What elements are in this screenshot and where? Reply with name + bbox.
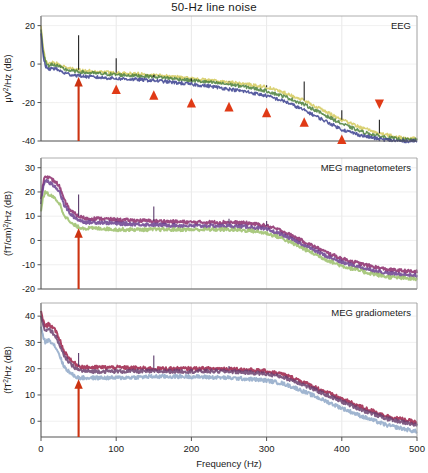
panel-tag-1: MEG magnetometers xyxy=(321,162,412,173)
ytick-label-30: 30 xyxy=(25,163,35,173)
panel-tag-2: MEG gradiometers xyxy=(331,307,411,318)
ytick-label--20: -20 xyxy=(22,98,35,108)
ytick-label-0: 0 xyxy=(30,236,35,246)
ytick-label-20: 20 xyxy=(25,187,35,197)
spectra-plot: 200-20-40EEG3020100-10-20MEG magnetomete… xyxy=(0,0,428,473)
figure-root: 50-Hz line noise 200-20-40EEG3020100-10-… xyxy=(0,0,428,473)
xtick-label-400: 400 xyxy=(334,443,350,454)
x-axis-label: Frequency (Hz) xyxy=(196,458,261,469)
ytick-label-10: 10 xyxy=(25,211,35,221)
ytick-label-0: 0 xyxy=(30,59,35,69)
ytick-label-0: 0 xyxy=(30,416,35,426)
xtick-label-100: 100 xyxy=(108,443,124,454)
ytick-label-10: 10 xyxy=(25,390,35,400)
y-axis-label-mag: (fT/cm)2/Hz (dB) xyxy=(2,191,14,256)
xtick-label-200: 200 xyxy=(183,443,199,454)
ytick-label-20: 20 xyxy=(25,21,35,31)
figure-title: 50-Hz line noise xyxy=(0,1,428,13)
y-axis-label-eeg: μV2/Hz (dB) xyxy=(2,55,14,103)
ytick-label-20: 20 xyxy=(25,364,35,374)
ytick-label--40: -40 xyxy=(22,136,35,146)
y-axis-label-grad: (fT2/Hz (dB) xyxy=(2,346,14,394)
ytick-label-40: 40 xyxy=(25,311,35,321)
ytick-label--20: -20 xyxy=(22,284,35,294)
ytick-label--10: -10 xyxy=(22,260,35,270)
panel-tag-0: EEG xyxy=(391,20,411,31)
xtick-label-0: 0 xyxy=(38,443,43,454)
ytick-label-30: 30 xyxy=(25,338,35,348)
xtick-label-500: 500 xyxy=(409,443,425,454)
xtick-label-300: 300 xyxy=(259,443,275,454)
